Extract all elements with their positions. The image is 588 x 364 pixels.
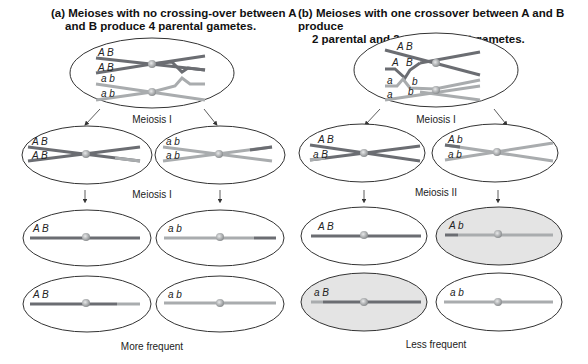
svg-text:b: b bbox=[408, 86, 414, 97]
stage-label: Meiosis I bbox=[132, 114, 171, 125]
meiosis-diagram: A B A B a b a b Meiosis I A B A B a b a … bbox=[0, 0, 588, 364]
svg-text:A B: A B bbox=[396, 41, 413, 52]
panel-b: A B A B a b a b Meiosis I A B a B A b a … bbox=[299, 33, 562, 350]
svg-text:a B: a B bbox=[314, 287, 329, 298]
svg-text:a b: a b bbox=[166, 136, 180, 147]
svg-text:a b: a b bbox=[101, 88, 115, 99]
svg-text:Meiosis I: Meiosis I bbox=[416, 114, 455, 125]
svg-text:a b: a b bbox=[450, 287, 464, 298]
svg-text:a b: a b bbox=[101, 73, 115, 84]
svg-text:Meiosis II: Meiosis II bbox=[415, 187, 457, 198]
svg-text:a: a bbox=[387, 75, 393, 86]
svg-text:A B: A B bbox=[31, 136, 48, 147]
svg-text:A b: A b bbox=[448, 220, 464, 231]
svg-text:A B: A B bbox=[97, 62, 114, 73]
label: A B bbox=[97, 47, 114, 58]
svg-text:a b: a b bbox=[448, 149, 462, 160]
svg-text:A B: A B bbox=[317, 221, 334, 232]
parent-cell-a bbox=[70, 38, 234, 108]
svg-text:B: B bbox=[406, 57, 413, 68]
frequency-label: Less frequent bbox=[406, 339, 467, 350]
svg-text:Meiosis I: Meiosis I bbox=[132, 189, 171, 200]
svg-text:a B: a B bbox=[313, 149, 328, 160]
frequency-label: More frequent bbox=[121, 341, 183, 352]
panel-a: A B A B a b a b Meiosis I A B A B a b a … bbox=[22, 38, 285, 352]
svg-text:a b: a b bbox=[168, 223, 182, 234]
svg-text:A B: A B bbox=[32, 289, 49, 300]
svg-text:A: A bbox=[391, 57, 399, 68]
svg-text:a: a bbox=[387, 89, 393, 100]
svg-text:A B: A B bbox=[317, 134, 334, 145]
parent-cell-b bbox=[354, 33, 518, 107]
svg-text:a b: a b bbox=[168, 289, 182, 300]
svg-text:A B: A B bbox=[32, 223, 49, 234]
svg-text:A b: A b bbox=[447, 134, 463, 145]
svg-text:a b: a b bbox=[166, 150, 180, 161]
svg-text:A B: A B bbox=[31, 150, 48, 161]
